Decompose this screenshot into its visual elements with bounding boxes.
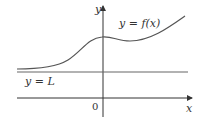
- x-axis-label: x: [186, 103, 192, 114]
- y-axis-label: y: [95, 4, 101, 15]
- curve-label: y = f(x): [119, 18, 160, 29]
- asymptote-label: y = L: [25, 76, 55, 87]
- graph-canvas: [0, 0, 200, 127]
- origin-label: 0: [92, 102, 98, 112]
